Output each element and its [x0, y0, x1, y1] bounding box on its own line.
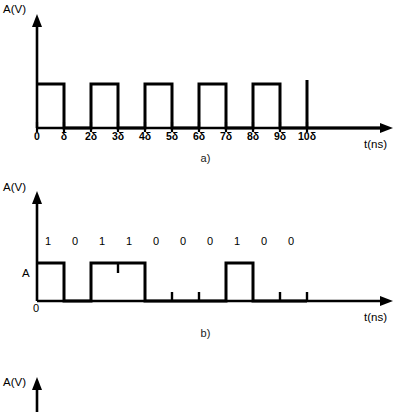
tick-label-8d: 8δ	[241, 130, 265, 142]
panel-a-caption: a)	[0, 152, 411, 164]
tick-label-0: 0	[27, 130, 47, 142]
tick-label-4d: 4δ	[133, 130, 157, 142]
panel-a-y-axis	[32, 14, 42, 128]
panel-c-plot	[0, 350, 411, 412]
panel-c-cropped-waveform: A(V)	[0, 350, 411, 412]
panel-a-clock-trace	[37, 80, 385, 128]
panel-a-plot	[0, 0, 411, 150]
panel-a-tick-labels: 0 δ 2δ 3δ 4δ 5δ 6δ 7δ 8δ 9δ 10δ	[0, 130, 411, 144]
panel-a-clock-waveform: A(V) t(ns) 0 δ	[0, 0, 411, 175]
panel-c-y-axis	[32, 377, 42, 412]
tick-label-3d: 3δ	[106, 130, 130, 142]
panel-b-y-axis	[32, 191, 42, 301]
panel-b-caption: b)	[0, 327, 411, 339]
tick-label-10d: 10δ	[293, 130, 321, 142]
panel-b-plot	[0, 175, 411, 325]
tick-label-5d: 5δ	[160, 130, 184, 142]
tick-label-1d: δ	[54, 130, 74, 142]
tick-label-9d: 9δ	[268, 130, 292, 142]
tick-label-7d: 7δ	[214, 130, 238, 142]
panel-b-nrz-waveform: A(V) t(ns) A 0 1 0 1 1 0 0 0 1 0 0	[0, 175, 411, 350]
tick-label-2d: 2δ	[79, 130, 103, 142]
tick-label-6d: 6δ	[187, 130, 211, 142]
